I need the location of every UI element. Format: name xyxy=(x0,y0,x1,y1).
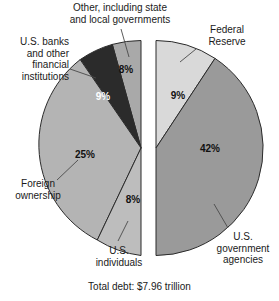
value-label-other: 8% xyxy=(119,64,134,75)
chart-caption: Total debt: $7.96 trillion xyxy=(0,281,279,292)
callout-label-other: Other, including state and local governm… xyxy=(55,2,185,25)
callout-label-individuals: U.S. individuals xyxy=(84,245,154,268)
value-label-banks: 9% xyxy=(96,91,111,102)
value-label-individuals: 8% xyxy=(126,194,141,205)
value-label-agencies: 42% xyxy=(200,143,220,154)
callout-label-federal-reserve: Federal Reserve xyxy=(196,24,258,47)
value-label-federal-reserve: 9% xyxy=(171,90,186,101)
callout-label-agencies: U.S. government agencies xyxy=(208,231,278,266)
value-label-foreign: 25% xyxy=(75,149,95,160)
callout-label-foreign: Foreign ownership xyxy=(2,178,74,201)
callout-label-banks: U.S. banks and other financial instituti… xyxy=(1,36,69,82)
pie-chart-figure: 8% 9% 25% 8% 9% 42% Other, including sta… xyxy=(0,0,279,301)
